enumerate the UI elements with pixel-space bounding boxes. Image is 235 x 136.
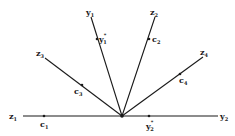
- ray-z2: [122, 17, 155, 116]
- label-z3: z3: [36, 48, 45, 59]
- label-c3: c3: [74, 86, 83, 97]
- ray-y1: [91, 17, 122, 116]
- label-y2: y2: [219, 111, 229, 122]
- label-y1: y1: [85, 7, 94, 18]
- point-c1: [43, 115, 46, 118]
- label-y1-star: y*1: [98, 32, 107, 45]
- ray-diagram: z1 y2 y1 z2 z3 z4 c1 y*2 y*1 c2 c3 c4: [0, 0, 235, 136]
- label-c1: c1: [40, 119, 48, 130]
- label-z1: z1: [9, 111, 17, 122]
- point-y1-star: [96, 38, 99, 41]
- label-z2: z2: [150, 7, 159, 18]
- origin-point: [120, 114, 124, 118]
- point-c2: [148, 38, 151, 41]
- label-y2-star: y*2: [145, 119, 154, 132]
- ray-z3: [45, 58, 122, 116]
- point-c3: [81, 84, 84, 87]
- label-c2: c2: [152, 34, 161, 45]
- ray-z4: [122, 57, 203, 116]
- point-y2-star: [148, 115, 151, 118]
- label-z4: z4: [200, 47, 209, 58]
- label-c4: c4: [179, 75, 188, 86]
